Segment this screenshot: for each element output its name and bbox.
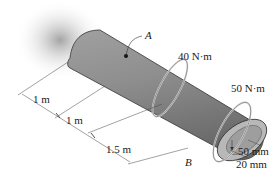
hollow-shaft-diagram: A 40 N·m 50 N·m B 1 m 1 m 1.5 m 50 mm 20…	[0, 0, 277, 183]
dim-ext-3	[88, 104, 162, 133]
torque-label-50: 50 N·m	[231, 82, 265, 94]
length-label-1: 1 m	[33, 93, 50, 105]
dim-tick-2	[91, 133, 95, 138]
dim-ext-4	[128, 148, 188, 164]
length-label-3: 1.5 m	[106, 143, 132, 155]
length-label-2: 1 m	[66, 114, 83, 126]
point-a-label: A	[144, 29, 152, 41]
outer-radius-label: 50 mm	[238, 145, 269, 157]
inner-radius-label: 20 mm	[236, 158, 267, 170]
torque-label-40: 40 N·m	[178, 50, 212, 62]
point-b-label: B	[185, 156, 192, 168]
